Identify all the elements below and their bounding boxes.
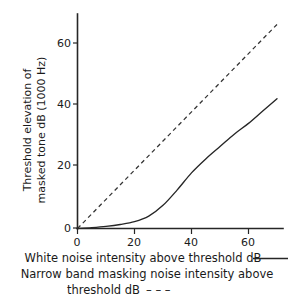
series-solid-white-noise (78, 99, 278, 229)
y-tick-label-40: 40 (57, 98, 71, 111)
x-axis-ticks (78, 229, 249, 234)
series-dashed-narrow-band (78, 24, 278, 228)
caption-line-narrow-band: Narrow band masking noise intensity abov… (21, 267, 274, 281)
y-axis-title-line1: Threshold elevation of (21, 68, 34, 193)
y-tick-label-60: 60 (57, 37, 71, 50)
x-tick-label-40: 40 (184, 236, 198, 249)
y-axis-title-line2: masked tone dB (1000 Hz) (35, 57, 48, 204)
x-tick-label-20: 20 (127, 236, 141, 249)
y-tick-label-20: 20 (57, 159, 71, 172)
y-axis-title: Threshold elevation of masked tone dB (1… (21, 57, 48, 204)
chart-figure: Threshold elevation of masked tone dB (1… (0, 0, 295, 303)
x-tick-label-60: 60 (241, 236, 255, 249)
legend-dashed-glyph: – – – (146, 283, 171, 297)
caption-line-white-noise: White noise intensity above threshold dB (25, 251, 262, 265)
y-axis-ticks (73, 43, 77, 228)
chart-svg: Threshold elevation of masked tone dB (1… (0, 0, 295, 303)
x-tick-label-0: 0 (74, 236, 81, 249)
y-tick-label-0: 0 (64, 222, 71, 235)
caption-line-threshold: threshold dB (67, 283, 140, 297)
